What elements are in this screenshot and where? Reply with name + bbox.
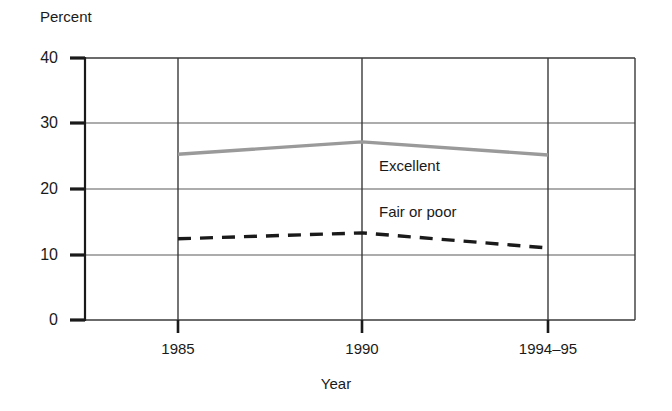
- gridlines-horizontal: [85, 58, 635, 320]
- x-axis-title: Year: [0, 375, 672, 392]
- series-line-excellent: [178, 142, 548, 155]
- series-line-fair-or-poor: [178, 233, 548, 248]
- x-tick-label-1994-95: 1994–95: [519, 340, 577, 357]
- series-label-excellent: Excellent: [379, 157, 440, 174]
- series-label-fair-or-poor: Fair or poor: [379, 203, 457, 220]
- x-tick-label-1985: 1985: [161, 340, 194, 357]
- x-tick-label-1990: 1990: [345, 340, 378, 357]
- y-axis-ticks: [70, 58, 85, 320]
- chart-container: Percent 40 30 20 10 0: [0, 0, 672, 411]
- x-axis-ticks: [178, 320, 548, 333]
